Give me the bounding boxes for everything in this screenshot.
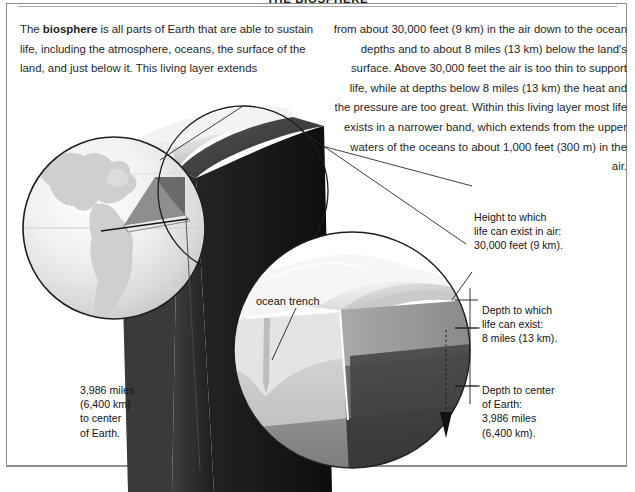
depth-core-arrow-head xyxy=(440,412,452,438)
globe-latitude-line xyxy=(30,285,198,290)
globe-outline xyxy=(23,137,205,319)
wedge-left-sheen xyxy=(99,142,178,186)
detail-crust-front xyxy=(228,358,350,444)
detail-core-mass xyxy=(350,344,470,492)
wedge-left-face xyxy=(120,169,178,492)
detail-land-ridge-texture xyxy=(352,291,462,320)
ocean-trench-cross-section xyxy=(172,170,470,492)
title-divider xyxy=(18,6,617,7)
label-depth-to-center-of-earth: Depth to center of Earth: 3,986 miles (6… xyxy=(482,383,632,440)
globe-sphere xyxy=(23,137,205,319)
globe-americas-cutaway xyxy=(20,137,208,319)
biosphere-figure-page: THE BIOSPHERE The biosphere is all parts… xyxy=(0,0,635,492)
label-height-to-which-life-can-exist-in-air: Height to which life can exist in air: 3… xyxy=(474,210,624,253)
label-ocean-trench: ocean trench xyxy=(256,294,320,308)
wedge-front-face xyxy=(172,170,214,492)
detail-sea-surface-highlight xyxy=(228,254,470,320)
left-text-before-bold: The xyxy=(20,23,43,35)
wedge-body xyxy=(196,126,332,492)
globe-wedge-inner-face xyxy=(155,177,185,215)
depth-to-core-arrow xyxy=(440,330,452,438)
globe-south-america xyxy=(89,204,133,319)
wedge-top-highlight xyxy=(99,107,298,186)
label-distance-to-center-of-earth: 3,986 miles (6,400 km) to center of Eart… xyxy=(80,383,190,440)
right-callout-leaders xyxy=(452,272,480,404)
detail-wedge-behind xyxy=(172,170,214,492)
detail-circle-background xyxy=(234,232,470,468)
page-title: THE BIOSPHERE xyxy=(0,0,635,5)
wedge-top-cap xyxy=(178,117,324,178)
detail-corner-edge xyxy=(340,310,348,420)
upper-detail-circle-outline xyxy=(158,106,328,276)
detail-mantle-front xyxy=(230,418,352,492)
globe-wedge-left-face xyxy=(124,177,185,225)
globe-latitude-line xyxy=(30,172,198,178)
detail-side-mantle xyxy=(344,352,470,418)
globe-landmass-detail xyxy=(106,169,128,187)
ocean-trench-pointer-line xyxy=(272,308,296,360)
height-air-leader-line xyxy=(452,272,472,300)
ocean-trench-notch xyxy=(263,318,270,394)
body-text-right-column: from about 30,000 feet (9 km) in the air… xyxy=(332,20,627,177)
detail-water-layer-front xyxy=(228,312,348,430)
wedge-surface-sheen xyxy=(160,110,293,170)
left-paragraph: The biosphere is all parts of Earth that… xyxy=(20,20,320,79)
detail-side-core xyxy=(346,404,470,492)
label-depth-to-which-life-can-exist: Depth to which life can exist: 8 miles (… xyxy=(482,303,632,346)
detail-side-crust xyxy=(340,300,470,366)
detail-circle-outline xyxy=(234,232,470,468)
globe-to-circle-leader-line xyxy=(160,106,243,160)
globe-north-america xyxy=(41,153,137,211)
globe-wedge-base-edge xyxy=(124,215,190,232)
globe-wedge-baseline xyxy=(101,219,188,231)
page-frame-bottom-rule xyxy=(6,466,627,467)
right-paragraph: from about 30,000 feet (9 km) in the air… xyxy=(332,20,627,177)
biosphere-keyword: biosphere xyxy=(43,23,97,35)
detail-land-ridge xyxy=(340,283,470,322)
detail-wedge-behind-2 xyxy=(214,228,258,492)
detail-front-top-edge xyxy=(228,312,340,320)
body-text-left-column: The biosphere is all parts of Earth that… xyxy=(20,20,320,79)
globe-wedge-cutout xyxy=(101,177,190,232)
